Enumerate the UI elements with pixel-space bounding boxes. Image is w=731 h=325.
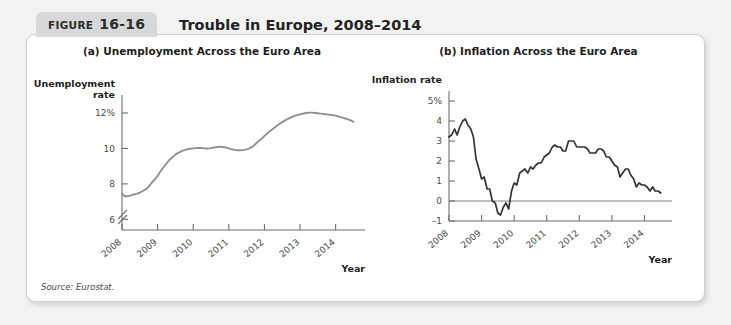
inflation-chart-svg: 5%43210–12008200920102011201220132014Inf… <box>371 35 706 273</box>
x-tick-label: 2014 <box>313 237 337 260</box>
y-tick-label: 5% <box>428 96 443 106</box>
x-tick-label: 2008 <box>99 237 123 260</box>
x-tick-label: 2013 <box>589 228 613 250</box>
data-line <box>122 113 353 197</box>
y-tick-label: 12% <box>95 108 115 118</box>
y-tick-label: 0 <box>436 196 442 206</box>
y-axis-title: Unemployment <box>34 78 116 89</box>
panel-inflation: (b) Inflation Across the Euro Area 5%432… <box>371 35 706 273</box>
x-tick-label: 2013 <box>277 237 301 259</box>
x-tick-label: 2011 <box>206 237 230 259</box>
y-tick-label: –1 <box>432 216 442 226</box>
source-note: Source: Eurostat. <box>41 282 114 292</box>
unemployment-chart-svg: 12%10862008200920102011201220132014Unemp… <box>27 35 377 273</box>
figure-header: FIGURE 16-16 Trouble in Europe, 2008–201… <box>36 12 421 37</box>
x-tick-label: 2012 <box>557 228 581 250</box>
figure-card: (a) Unemployment Across the Euro Area 12… <box>26 34 705 302</box>
x-tick-label: 2010 <box>171 237 195 260</box>
x-tick-label: 2012 <box>242 237 266 259</box>
chart-panels: (a) Unemployment Across the Euro Area 12… <box>27 35 706 273</box>
x-tick-label: 2014 <box>622 228 646 251</box>
y-tick-label: 3 <box>436 136 442 146</box>
y-axis-title: rate <box>93 89 115 100</box>
y-axis-title: Inflation rate <box>372 74 442 85</box>
x-axis-title: Year <box>340 263 365 273</box>
figure-number-tab: FIGURE 16-16 <box>36 12 157 37</box>
x-tick-label: 2009 <box>135 237 159 260</box>
panel-unemployment: (a) Unemployment Across the Euro Area 12… <box>27 35 377 273</box>
y-tick-label: 1 <box>436 176 442 186</box>
y-tick-label: 2 <box>436 156 442 166</box>
x-tick-label: 2011 <box>524 228 548 250</box>
y-tick-label: 4 <box>436 116 442 126</box>
y-tick-label: 10 <box>104 144 116 154</box>
y-tick-label: 6 <box>109 215 115 225</box>
x-tick-label: 2009 <box>459 228 483 251</box>
figure-label: FIGURE <box>48 19 93 31</box>
figure-number: 16-16 <box>99 16 145 32</box>
x-axis-title: Year <box>647 254 672 265</box>
y-tick-label: 8 <box>109 179 115 189</box>
figure-title: Trouble in Europe, 2008–2014 <box>179 17 421 33</box>
x-tick-label: 2010 <box>491 228 515 251</box>
x-tick-label: 2008 <box>426 228 450 251</box>
figure-root: FIGURE 16-16 Trouble in Europe, 2008–201… <box>0 0 731 325</box>
